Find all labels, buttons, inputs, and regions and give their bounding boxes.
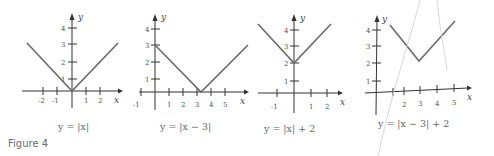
x-tick-label: -1 — [271, 103, 278, 111]
graph-abs-x-minus-3: -1 1 2 3 4 5 1 2 3 4 x y y = |x − 3| — [133, 12, 249, 133]
y-tick-label: 4 — [366, 27, 371, 35]
x-axis — [365, 88, 468, 93]
x-tick-label: 4 — [435, 100, 440, 108]
x-axis-label: x — [340, 97, 345, 107]
y-tick-label: 2 — [366, 60, 370, 68]
y-axis-arrow-icon — [292, 14, 297, 21]
y-tick-label: 1 — [145, 76, 149, 84]
x-axis-arrow-icon — [244, 90, 249, 95]
y-axis-arrow-icon — [70, 13, 75, 20]
y-tick-label: 4 — [145, 26, 150, 34]
figure-4-graphs: -2 -1 1 2 1 2 3 4 x y y = |x| - — [0, 0, 494, 156]
y-axis-label: y — [299, 13, 306, 23]
x-axis-label: x — [114, 95, 119, 105]
x-tick-label: 3 — [195, 101, 199, 109]
x-tick-label: 5 — [223, 101, 227, 109]
x-tick-label: 2 — [325, 103, 329, 111]
y-tick-label: 3 — [61, 41, 65, 49]
x-tick-label: 2 — [402, 101, 406, 109]
x-tick-label: 2 — [98, 97, 102, 105]
equation-label: y = |x| + 2 — [263, 123, 315, 135]
y-tick-label: 3 — [284, 43, 288, 51]
y-tick-label: 1 — [366, 78, 370, 86]
x-axis-arrow-icon — [118, 89, 123, 94]
y-tick-label: 4 — [61, 25, 66, 33]
equation-label: y = |x − 3| — [159, 121, 211, 133]
x-tick-label: 1 — [167, 101, 171, 109]
figure-caption: Figure 4 — [8, 138, 48, 149]
x-axis-label: x — [467, 92, 472, 102]
x-axis-label: x — [240, 96, 245, 106]
y-tick-label: 4 — [284, 27, 289, 35]
equation-label: y = |x| — [57, 121, 89, 133]
x-tick-label: 5 — [452, 99, 456, 107]
y-axis-arrow-icon — [375, 15, 380, 22]
y-axis-label: y — [160, 12, 167, 22]
graph-abs-x-minus-3-plus-2: 2 3 4 5 1 2 3 4 x y y = |x − 3| + 2 — [365, 14, 472, 130]
x-tick-label: 3 — [418, 100, 422, 108]
graph-abs-x: -2 -1 1 2 1 2 3 4 x y y = |x| — [22, 12, 123, 133]
y-tick-label: 2 — [284, 60, 288, 68]
graph-curve — [390, 21, 455, 61]
x-tick-label: 1 — [84, 97, 88, 105]
y-tick-label: 3 — [366, 43, 370, 51]
x-tick-label: 4 — [209, 101, 214, 109]
x-axis-arrow-icon — [338, 91, 343, 96]
y-axis-arrow-icon — [153, 14, 158, 21]
y-tick-label: 3 — [145, 42, 149, 50]
equation-label: y = |x − 3| + 2 — [377, 118, 449, 130]
y-tick-label: 2 — [61, 59, 65, 67]
y-axis-label: y — [381, 14, 388, 24]
x-tick-label: -1 — [133, 101, 140, 109]
y-axis-label: y — [77, 12, 84, 22]
x-axis-arrow-icon — [467, 86, 472, 91]
graph-curve — [155, 45, 248, 92]
x-tick-label: -1 — [52, 97, 59, 105]
graph-abs-x-plus-2: -1 1 2 1 2 3 4 x y y = |x| + 2 — [258, 13, 345, 135]
x-tick-label: 2 — [181, 101, 185, 109]
scan-smudge — [437, 0, 447, 70]
x-tick-label: -2 — [38, 97, 45, 105]
x-tick-label: 1 — [309, 103, 313, 111]
y-tick-label: 2 — [145, 59, 149, 67]
y-axis — [376, 19, 377, 115]
y-tick-label: 1 — [284, 78, 288, 86]
